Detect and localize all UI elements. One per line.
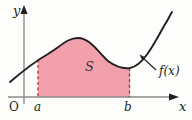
figure-canvas xyxy=(0,0,192,120)
lower-bound-label-a: a xyxy=(34,101,41,113)
y-axis-arrow-icon xyxy=(20,5,27,14)
region-label-S: S xyxy=(85,60,94,73)
function-label: f(x) xyxy=(159,65,180,77)
x-axis-label: x xyxy=(179,100,186,113)
shaded-region-S xyxy=(38,38,130,97)
function-label-pointer-line xyxy=(142,57,156,70)
origin-label: O xyxy=(9,101,19,113)
upper-bound-label-b: b xyxy=(124,101,132,113)
x-axis-arrow-icon xyxy=(169,93,179,100)
area-under-curve-figure: y x O a b S f(x) xyxy=(0,0,192,120)
y-axis-label: y xyxy=(13,4,20,17)
